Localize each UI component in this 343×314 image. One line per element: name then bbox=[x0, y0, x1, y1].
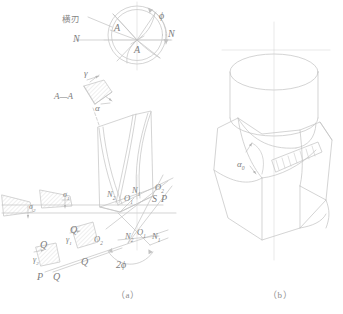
figure-canvas: 横刃 A A N N ϕ A—A γ α σ1 σ2 γ1 γ2 Q Q Q Q… bbox=[0, 0, 343, 314]
sigma2-subscript: 2 bbox=[33, 208, 35, 213]
label-N-right: N bbox=[168, 29, 175, 39]
o1-upper-subscript: 1 bbox=[130, 199, 133, 205]
label-chisel-edge: 横刃 bbox=[62, 15, 80, 24]
section-wedges bbox=[2, 190, 98, 266]
label-N2-lower: N2 bbox=[125, 232, 133, 243]
label-S: S bbox=[152, 194, 157, 204]
label-section-A-A: A—A bbox=[54, 92, 73, 101]
label-sigma2: σ2 bbox=[29, 203, 35, 214]
gamma2-subscript: 2 bbox=[36, 261, 38, 266]
n2-lower-subscript: 2 bbox=[131, 237, 134, 243]
label-O1-upper: O1 bbox=[124, 194, 133, 205]
label-gamma1: γ1 bbox=[66, 236, 72, 247]
label-alpha0: α0 bbox=[237, 160, 245, 171]
grinding-setup-view bbox=[214, 22, 332, 260]
caption-a: （a） bbox=[116, 291, 140, 300]
drill-end-view bbox=[75, 2, 172, 70]
label-gamma: γ bbox=[84, 69, 88, 78]
label-N-left: N bbox=[73, 34, 80, 44]
sigma1-subscript: 1 bbox=[67, 196, 69, 201]
label-two-phi: 2ϕ bbox=[116, 260, 126, 270]
n1-lower-subscript: 1 bbox=[158, 237, 161, 243]
alpha0-subscript: 0 bbox=[242, 165, 245, 171]
label-O1-lower: O1 bbox=[137, 228, 146, 239]
label-P-right: P bbox=[161, 194, 167, 204]
n1-upper-subscript: 1 bbox=[138, 191, 141, 197]
label-phi: ϕ bbox=[159, 11, 164, 21]
label-Q-d: Q bbox=[53, 272, 60, 282]
label-A-lower: A bbox=[134, 45, 140, 55]
label-Q-a: Q bbox=[70, 225, 77, 235]
o2-lower-subscript: 2 bbox=[100, 240, 103, 246]
label-N2-upper: N2 bbox=[107, 190, 115, 201]
label-P-left: P bbox=[37, 272, 43, 282]
gamma1-subscript: 1 bbox=[69, 241, 71, 246]
label-alpha: α bbox=[95, 104, 100, 113]
label-N1-lower: N1 bbox=[152, 232, 160, 243]
caption-b: （b） bbox=[268, 291, 292, 300]
label-A-upper: A bbox=[114, 23, 120, 33]
n2-upper-subscript: 2 bbox=[113, 195, 116, 201]
label-sigma1: σ1 bbox=[63, 191, 69, 202]
label-Q-b: Q bbox=[40, 240, 47, 250]
line-drawing bbox=[0, 0, 343, 314]
label-O2-lower: O2 bbox=[94, 235, 103, 246]
label-gamma2: γ2 bbox=[33, 256, 39, 267]
label-N1-upper: N1 bbox=[132, 186, 140, 197]
section-A-A bbox=[84, 75, 112, 125]
label-Q-c: Q bbox=[81, 257, 88, 267]
o1-lower-subscript: 1 bbox=[143, 233, 146, 239]
